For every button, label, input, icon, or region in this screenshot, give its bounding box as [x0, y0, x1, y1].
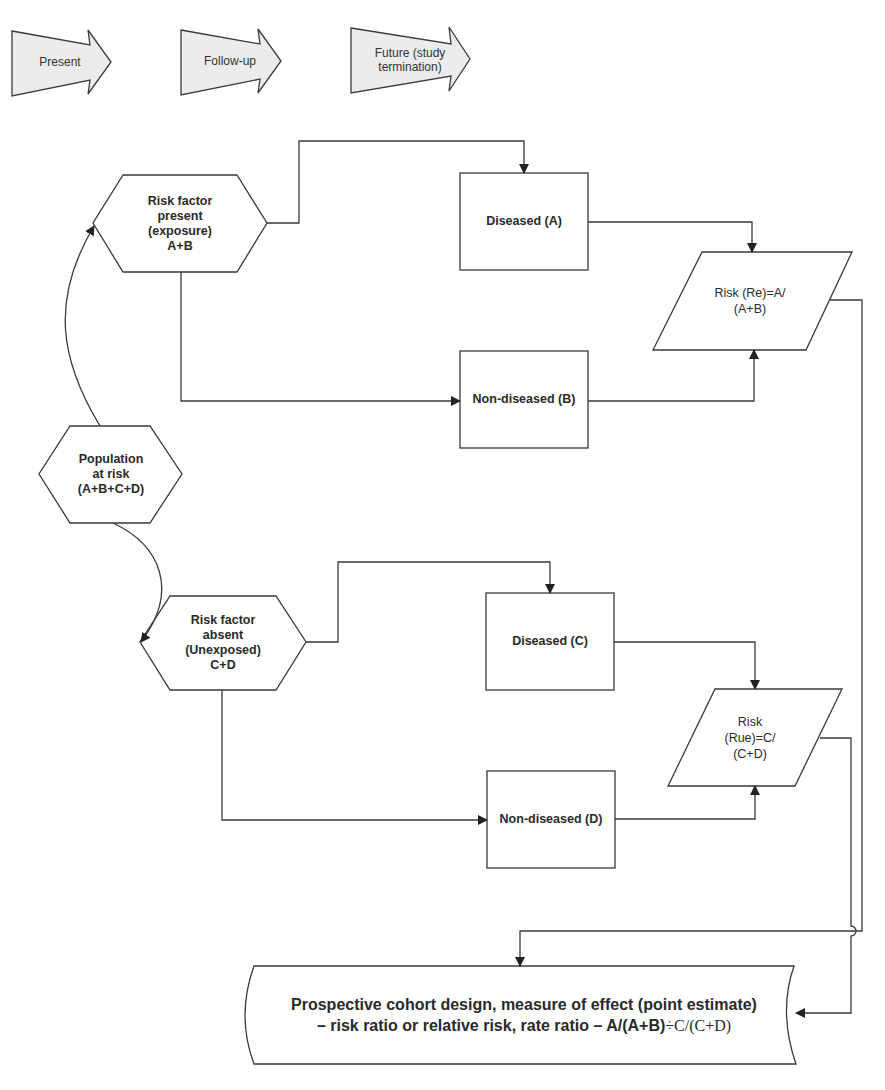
node-exposed: Risk factor present (exposure) A+B: [110, 175, 250, 272]
connector-population-exposed: [65, 226, 100, 426]
node-risk-unexposed: Risk (Rue)=C/ (C+D): [690, 689, 810, 786]
node-result-line1: Prospective cohort design, measure of ef…: [291, 994, 757, 1015]
node-unexposed-line: Risk factor: [191, 613, 256, 628]
phase-label-followup: Follow-up: [190, 49, 270, 73]
node-result-line2-serif: ÷C/(C+D): [665, 1017, 731, 1034]
node-diseased-c: Diseased (C): [486, 593, 614, 690]
node-population-line: Population: [79, 452, 144, 467]
connector-nondiseased-b-risk: [588, 350, 754, 401]
node-unexposed-line: absent: [203, 628, 243, 643]
node-exposed-line: A+B: [167, 239, 192, 254]
node-risk-exposed: Risk (Re)=A/ (A+B): [680, 252, 820, 350]
node-risk-exposed-line: (A+B): [734, 301, 766, 317]
node-risk-unexposed-line: (C+D): [733, 746, 767, 762]
node-result: Prospective cohort design, measure of ef…: [250, 966, 798, 1064]
node-risk-unexposed-line: Risk: [738, 714, 762, 730]
node-population: Population at risk (A+B+C+D): [55, 426, 167, 523]
node-population-line: (A+B+C+D): [78, 482, 144, 497]
node-unexposed-line: (Unexposed): [185, 643, 261, 658]
connector-diseased-a-risk: [588, 222, 752, 252]
node-nondiseased-d: Non-diseased (D): [487, 771, 615, 868]
phase-label-future: Future (study termination): [355, 48, 465, 72]
phase-label-present: Present: [20, 50, 100, 74]
node-risk-unexposed-line: (Rue)=C/: [724, 730, 775, 746]
connector-unexposed-nondiseased-d: [222, 690, 487, 820]
node-result-line2-bold: – risk ratio or relative risk, rate rati…: [317, 1017, 665, 1034]
node-exposed-line: (exposure): [148, 224, 212, 239]
node-population-line: at risk: [93, 467, 130, 482]
node-result-line2: – risk ratio or relative risk, rate rati…: [317, 1015, 731, 1036]
node-unexposed-line: C+D: [210, 658, 235, 673]
node-diseased-a: Diseased (A): [460, 173, 588, 270]
node-unexposed: Risk factor absent (Unexposed) C+D: [155, 596, 291, 690]
node-risk-exposed-line: Risk (Re)=A/: [714, 285, 785, 301]
node-exposed-line: present: [157, 209, 202, 224]
connector-nondiseased-d-risk: [615, 786, 755, 819]
node-exposed-line: Risk factor: [148, 194, 213, 209]
connector-diseased-c-risk: [614, 642, 755, 689]
node-nondiseased-b: Non-diseased (B): [460, 351, 588, 448]
diagram-canvas: [0, 0, 885, 1090]
connector-exposed-nondiseased-b: [181, 272, 460, 401]
